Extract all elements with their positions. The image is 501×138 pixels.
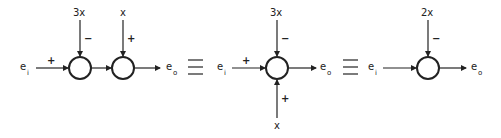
svg-text:−: −	[432, 33, 440, 44]
svg-text:i: i	[27, 69, 29, 77]
input-sign: +	[47, 55, 55, 66]
svg-text:+: +	[242, 55, 250, 66]
junction-2-top-label: x	[120, 7, 126, 18]
summing-junction-1	[69, 57, 91, 79]
svg-text:o: o	[173, 69, 177, 77]
svg-text:e: e	[217, 61, 223, 72]
svg-text:o: o	[327, 69, 331, 77]
junction-2-top-sign: +	[127, 33, 135, 44]
svg-text:+: +	[281, 93, 289, 104]
input-label: e	[20, 61, 26, 72]
junction-1-top-label: 3x	[73, 7, 85, 18]
svg-text:x: x	[274, 120, 280, 131]
output-label: e	[166, 61, 172, 72]
svg-text:2x: 2x	[421, 7, 433, 18]
svg-text:−: −	[281, 33, 289, 44]
svg-text:i: i	[375, 69, 377, 77]
svg-text:i: i	[224, 69, 226, 77]
svg-text:e: e	[471, 61, 477, 72]
svg-text:e: e	[368, 61, 374, 72]
block-diagram: e i + 3x − x + e o e i + 3x − + x e o e …	[0, 0, 501, 138]
junction-1-top-sign: −	[84, 33, 92, 44]
svg-text:3x: 3x	[270, 7, 282, 18]
summing-junction-reduced	[417, 57, 439, 79]
summing-junction-combined	[266, 57, 288, 79]
summing-junction-2	[112, 57, 134, 79]
svg-text:e: e	[320, 61, 326, 72]
svg-text:o: o	[478, 69, 482, 77]
